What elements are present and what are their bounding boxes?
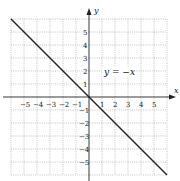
y-tick-label: −3: [79, 133, 89, 141]
y-axis-label: y: [93, 6, 99, 15]
y-tick-label: −2: [79, 120, 89, 128]
y-tick-labels-negative: −1 −2 −3 −4 −5: [79, 107, 90, 167]
y-tick-label: −4: [79, 146, 90, 154]
y-tick-label: 1: [83, 81, 87, 89]
x-tick-label: 3: [126, 101, 130, 109]
y-axis-arrow-icon: [87, 8, 92, 15]
x-tick-label: −3: [46, 101, 56, 109]
x-tick-labels-negative: −5 −4 −3 −2 −1: [20, 101, 82, 109]
x-axis-label: x: [174, 86, 179, 95]
y-tick-labels-positive: 5 4 3 2 1: [83, 29, 88, 89]
x-tick-label: −2: [59, 101, 69, 109]
x-tick-label: 4: [139, 101, 144, 109]
x-tick-label: −4: [33, 101, 44, 109]
y-tick-label: 3: [83, 55, 87, 63]
y-tick-label: 2: [83, 68, 87, 76]
x-tick-label: −5: [20, 101, 30, 109]
coordinate-plane: x y −5 −4 −3 −2 −1 1 2 3 4 5 5 4 3 2 1 −…: [0, 0, 180, 181]
x-tick-labels-positive: 1 2 3 4 5: [100, 101, 156, 109]
x-tick-label: 2: [113, 101, 117, 109]
axes: [3, 12, 172, 181]
y-tick-label: 5: [83, 29, 87, 37]
y-tick-label: −5: [79, 159, 89, 167]
y-tick-label: 4: [83, 42, 88, 50]
y-tick-label: −1: [79, 107, 89, 115]
equation-label: y = −x: [103, 67, 135, 77]
x-tick-label: 5: [152, 101, 156, 109]
x-axis-arrow-icon: [169, 95, 176, 100]
